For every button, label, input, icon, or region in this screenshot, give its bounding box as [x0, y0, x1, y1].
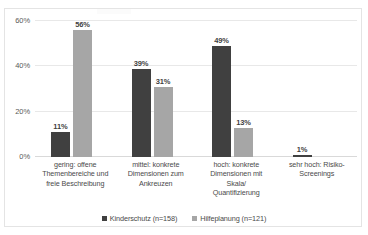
x-axis-label-line: Skala/ [190, 179, 283, 188]
bar-group: 1% [277, 21, 358, 157]
legend-item[interactable]: Hilfeplanung (n=121) [192, 214, 266, 223]
y-axis-tick-label: 60% [15, 16, 30, 25]
x-axis-label-line: mittel: konkrete [110, 160, 203, 169]
x-axis-label-line: gering: offene [29, 160, 122, 169]
bar-value-label: 1% [297, 145, 308, 154]
legend-item[interactable]: Kinderschutz (n=158) [102, 214, 178, 223]
x-axis-category-labels: gering: offeneThemenbereiche undfreie Be… [35, 160, 357, 208]
bar-group: 49%13% [196, 21, 277, 157]
x-axis-label-line: Themenbereiche und [29, 169, 122, 178]
legend-swatch-icon [192, 216, 197, 221]
bar: 49% [212, 46, 231, 157]
bar-value-label: 56% [75, 20, 90, 29]
bar: 13% [234, 128, 253, 157]
bar: 56% [73, 30, 92, 157]
bar-value-label: 49% [214, 36, 229, 45]
bar-group: 39%31% [116, 21, 197, 157]
bar: 31% [154, 87, 173, 157]
x-axis-label-line: Dimensionen mit [190, 169, 283, 178]
y-axis-tick-label: 20% [15, 106, 30, 115]
cropped-artifact [97, 9, 131, 14]
y-axis-tick-label: 40% [15, 61, 30, 70]
chart-container: 0%20%40%60%11%56%39%31%49%13%1% gering: … [4, 8, 362, 227]
x-axis-label-line: freie Beschreibung [29, 179, 122, 188]
x-axis-label-line: Dimensionen zum [110, 169, 203, 178]
x-axis-category-label: mittel: konkreteDimensionen zumAnkreuzen [110, 160, 203, 188]
x-axis-label-line: Quantifizierung [190, 188, 283, 197]
x-axis-category-label: hoch: konkreteDimensionen mitSkala/Quant… [190, 160, 283, 198]
bar-value-label: 39% [134, 59, 149, 68]
legend-label: Hilfeplanung (n=121) [200, 214, 266, 223]
plot-area: 0%20%40%60%11%56%39%31%49%13%1% [35, 21, 357, 157]
bar-value-label: 13% [236, 118, 251, 127]
legend-label: Kinderschutz (n=158) [110, 214, 178, 223]
x-axis-label-line: Ankreuzen [110, 179, 203, 188]
x-axis-category-label: gering: offeneThemenbereiche undfreie Be… [29, 160, 122, 188]
legend-swatch-icon [102, 216, 107, 221]
bar-value-label: 11% [53, 122, 67, 131]
bar: 11% [51, 132, 70, 157]
x-axis-label-line: sehr hoch: Risiko- [271, 160, 364, 169]
chart-legend: Kinderschutz (n=158)Hilfeplanung (n=121) [5, 214, 363, 223]
bar-group: 11%56% [35, 21, 116, 157]
bar: 39% [132, 69, 151, 157]
bar-value-label: 31% [156, 77, 171, 86]
x-axis-label-line: Screenings [271, 169, 364, 178]
x-axis-label-line: hoch: konkrete [190, 160, 283, 169]
bar: 1% [293, 155, 312, 157]
x-axis-category-label: sehr hoch: Risiko-Screenings [271, 160, 364, 179]
